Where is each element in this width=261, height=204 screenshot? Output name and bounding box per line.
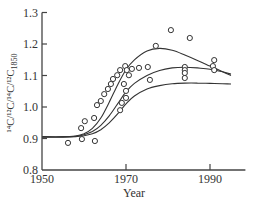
- data-point-marker: [124, 68, 129, 73]
- data-point-marker: [212, 58, 217, 63]
- y-axis-title: ¹⁴C/¹²C/¹⁴C/¹²C1850: [5, 54, 19, 133]
- data-point-marker: [82, 119, 87, 124]
- data-point-marker: [153, 43, 158, 48]
- data-point-marker: [115, 73, 120, 78]
- data-point-marker: [102, 92, 107, 97]
- data-point-marker: [136, 65, 141, 70]
- x-tick-label: 1950: [30, 172, 54, 186]
- data-point-marker: [145, 64, 150, 69]
- data-point-marker: [182, 75, 187, 80]
- y-tick-label: 0.9: [23, 132, 38, 146]
- y-axis-title-subscript: 1850: [10, 54, 19, 70]
- model-lines: [42, 48, 231, 137]
- data-point-marker: [79, 126, 84, 131]
- y-tick-label: 1.3: [23, 6, 38, 20]
- plot-area: [42, 28, 231, 146]
- data-point-marker: [123, 88, 128, 93]
- scatter-points: [65, 28, 216, 146]
- x-axis-title: Year: [123, 186, 145, 200]
- data-point-marker: [108, 81, 113, 86]
- data-point-marker: [118, 108, 123, 113]
- data-point-marker: [98, 98, 103, 103]
- data-point-marker: [92, 115, 97, 120]
- x-tick-label: 1970: [114, 172, 138, 186]
- x-ticks: 195019701990: [30, 164, 222, 186]
- y-tick-label: 1.2: [23, 37, 38, 51]
- x-tick-label: 1990: [198, 172, 222, 186]
- data-point-marker: [168, 28, 173, 33]
- data-point-marker: [212, 68, 217, 73]
- data-point-marker: [123, 95, 128, 100]
- model-middle-curve: [42, 67, 231, 137]
- chart-canvas: 0.80.91.01.11.21.3 195019701990 Year ¹⁴C…: [0, 0, 261, 204]
- y-axis-title-main: ¹⁴C/¹²C/¹⁴C/¹²C: [5, 70, 16, 133]
- data-point-marker: [65, 140, 70, 145]
- data-point-marker: [105, 86, 110, 91]
- data-point-marker: [182, 70, 187, 75]
- y-tick-label: 1.1: [23, 69, 38, 83]
- data-point-marker: [129, 66, 134, 71]
- data-point-marker: [92, 138, 97, 143]
- data-point-marker: [147, 77, 152, 82]
- data-point-marker: [119, 100, 124, 105]
- data-point-marker: [187, 35, 192, 40]
- data-point-marker: [121, 81, 126, 86]
- model-upper-curve: [42, 48, 231, 137]
- y-tick-label: 1.0: [23, 100, 38, 114]
- y-ticks: 0.80.91.01.11.21.3: [23, 6, 47, 178]
- data-point-marker: [79, 137, 84, 142]
- model-lower-curve: [42, 83, 231, 137]
- data-point-marker: [126, 73, 131, 78]
- data-point-marker: [118, 68, 123, 73]
